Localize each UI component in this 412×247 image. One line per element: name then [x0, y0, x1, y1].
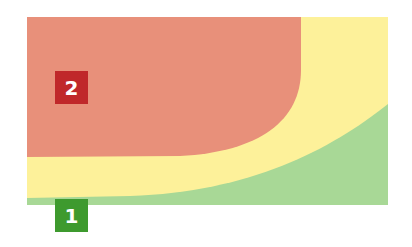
- zone-label-2: 2: [55, 71, 88, 104]
- zone-label-1: 1: [55, 199, 88, 232]
